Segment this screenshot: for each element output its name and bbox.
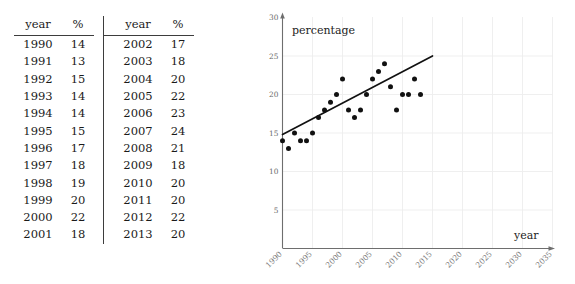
table-spacer	[94, 209, 104, 226]
table-spacer	[94, 36, 104, 54]
cell-year-left: 1992	[14, 71, 62, 88]
y-tick-label: 15	[269, 129, 279, 138]
cell-year-left: 2000	[14, 209, 62, 226]
x-axis-arrow-icon	[549, 246, 556, 251]
column-header-percent-left: %	[62, 16, 94, 36]
cell-year-left: 1997	[14, 157, 62, 174]
y-tick-label: 20	[269, 90, 279, 99]
table-spacer	[94, 192, 104, 209]
scatter-chart: 1990199520002005201020152020202520302035…	[262, 8, 572, 284]
x-tick-label: 2005	[354, 249, 374, 269]
x-tick-label: 2035	[534, 249, 554, 269]
x-tick-label: 2000	[324, 249, 344, 269]
x-tick-label: 1995	[294, 249, 314, 269]
cell-percent-left: 13	[62, 54, 94, 71]
cell-percent-right: 18	[162, 54, 194, 71]
table-spacer	[94, 71, 104, 88]
cell-percent-left: 18	[62, 157, 94, 174]
cell-year-left: 1995	[14, 123, 62, 140]
cell-percent-left: 17	[62, 140, 94, 157]
cell-year-left: 1991	[14, 54, 62, 71]
table-row: 199215200420	[14, 71, 194, 88]
data-point	[286, 146, 291, 151]
table-header-row: year % year %	[14, 16, 194, 36]
cell-percent-left: 15	[62, 123, 94, 140]
cell-year-right: 2004	[104, 71, 163, 88]
data-point	[334, 92, 339, 97]
y-tick-label: 5	[274, 206, 279, 215]
cell-year-left: 1996	[14, 140, 62, 157]
y-axis-title: percentage	[292, 24, 355, 37]
cell-year-right: 2009	[104, 157, 163, 174]
table-row: 199617200821	[14, 140, 194, 157]
table-spacer	[94, 123, 104, 140]
data-point	[358, 107, 363, 112]
table-row: 199113200318	[14, 54, 194, 71]
cell-percent-left: 14	[62, 88, 94, 105]
table-spacer	[94, 175, 104, 192]
x-tick-label: 1990	[264, 249, 284, 269]
cell-year-left: 2001	[14, 227, 62, 244]
data-table-container: year % year % 19901420021719911320031819…	[14, 16, 194, 244]
y-axis-arrow-icon	[280, 13, 285, 19]
cell-percent-left: 19	[62, 175, 94, 192]
table-spacer	[94, 157, 104, 174]
data-point	[304, 138, 309, 143]
data-point	[406, 92, 411, 97]
cell-percent-right: 21	[162, 140, 194, 157]
data-point	[316, 115, 321, 120]
table-spacer	[94, 105, 104, 122]
data-point	[292, 131, 297, 136]
data-point	[370, 77, 375, 82]
data-point	[322, 107, 327, 112]
cell-year-right: 2002	[104, 36, 163, 54]
cell-year-left: 1990	[14, 36, 62, 54]
cell-year-right: 2011	[104, 192, 163, 209]
x-tick-label: 2025	[474, 249, 494, 269]
table-row: 199515200724	[14, 123, 194, 140]
data-point	[376, 69, 381, 74]
data-points-group	[280, 61, 423, 151]
table-row: 199314200522	[14, 88, 194, 105]
cell-year-right: 2006	[104, 105, 163, 122]
column-header-percent-right: %	[162, 16, 194, 36]
cell-year-right: 2003	[104, 54, 163, 71]
x-tick-label: 2030	[504, 249, 524, 269]
cell-year-right: 2013	[104, 227, 163, 244]
y-tick-label: 30	[269, 13, 279, 22]
table-row: 199718200918	[14, 157, 194, 174]
y-tick-label: 10	[269, 167, 279, 176]
data-point	[340, 77, 345, 82]
cell-percent-right: 24	[162, 123, 194, 140]
data-point	[418, 92, 423, 97]
cell-percent-left: 14	[62, 36, 94, 54]
x-tick-label: 2015	[414, 249, 434, 269]
y-axis-group: 51015202530	[269, 13, 279, 215]
table-spacer	[94, 88, 104, 105]
data-point	[298, 138, 303, 143]
table-row: 199920201120	[14, 192, 194, 209]
data-point	[382, 61, 387, 66]
data-point	[364, 92, 369, 97]
table-spacer	[94, 16, 104, 36]
cell-percent-right: 20	[162, 192, 194, 209]
cell-year-left: 1994	[14, 105, 62, 122]
cell-percent-right: 20	[162, 175, 194, 192]
cell-percent-right: 20	[162, 227, 194, 244]
table-row: 200022201222	[14, 209, 194, 226]
data-point	[280, 138, 285, 143]
table-row: 199014200217	[14, 36, 194, 54]
table-row: 199819201020	[14, 175, 194, 192]
cell-year-right: 2012	[104, 209, 163, 226]
cell-year-right: 2007	[104, 123, 163, 140]
year-percentage-table: year % year % 19901420021719911320031819…	[14, 16, 194, 244]
x-tick-label: 2010	[384, 249, 404, 269]
x-axis-title: year	[513, 229, 539, 242]
table-spacer	[94, 227, 104, 244]
column-header-year-right: year	[104, 16, 163, 36]
data-point	[400, 92, 405, 97]
data-point	[346, 107, 351, 112]
cell-percent-left: 14	[62, 105, 94, 122]
data-point	[394, 107, 399, 112]
cell-year-right: 2010	[104, 175, 163, 192]
